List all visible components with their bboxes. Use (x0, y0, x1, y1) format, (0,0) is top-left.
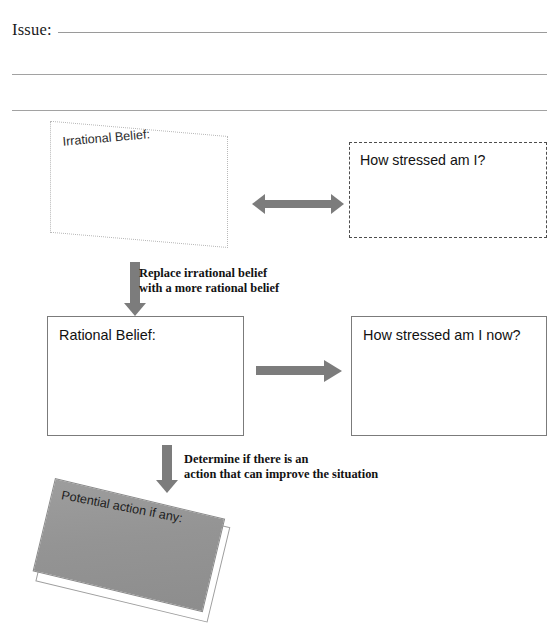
arrow-down-head-icon (156, 480, 178, 493)
potential-action-box[interactable]: Potential action if any: (33, 478, 226, 612)
arrow-shaft (263, 200, 333, 208)
stress-before-box[interactable]: How stressed am I? (349, 142, 547, 238)
stress-before-label: How stressed am I? (360, 152, 485, 168)
issue-input-line-2[interactable] (12, 74, 547, 75)
replace-caption-line2: with a more rational belief (139, 281, 279, 296)
arrow-shaft (256, 366, 324, 375)
potential-action-label: Potential action if any: (60, 488, 184, 525)
determine-down-arrow (156, 445, 178, 493)
issue-input-line-1[interactable] (58, 32, 547, 33)
determine-caption: Determine if there is an action that can… (184, 452, 378, 482)
reassess-right-arrow (256, 360, 342, 382)
compare-double-arrow (252, 193, 344, 215)
issue-label: Issue: (12, 20, 52, 40)
replace-caption-line1: Replace irrational belief (139, 266, 279, 281)
potential-action-node[interactable]: Potential action if any: (33, 478, 226, 612)
arrow-right-head-icon (324, 360, 342, 382)
irrational-belief-box[interactable]: Irrational Belief: (50, 121, 228, 248)
irrational-belief-node[interactable]: Irrational Belief: (50, 136, 228, 248)
rational-belief-label: Rational Belief: (59, 327, 156, 343)
arrow-right-head-icon (331, 194, 344, 214)
stress-after-box[interactable]: How stressed am I now? (351, 316, 547, 436)
determine-caption-line2: action that can improve the situation (184, 467, 378, 482)
replace-caption: Replace irrational belief with a more ra… (139, 266, 279, 296)
issue-input-line-3[interactable] (12, 110, 547, 111)
stress-after-label: How stressed am I now? (363, 327, 521, 343)
determine-caption-line1: Determine if there is an (184, 452, 378, 467)
worksheet-page: Issue: Irrational Belief: How stressed a… (0, 0, 559, 633)
irrational-belief-label: Irrational Belief: (62, 127, 150, 148)
arrow-down-head-icon (124, 303, 146, 316)
arrow-shaft (162, 445, 172, 480)
rational-belief-box[interactable]: Rational Belief: (47, 316, 244, 436)
issue-row: Issue: (12, 20, 547, 42)
